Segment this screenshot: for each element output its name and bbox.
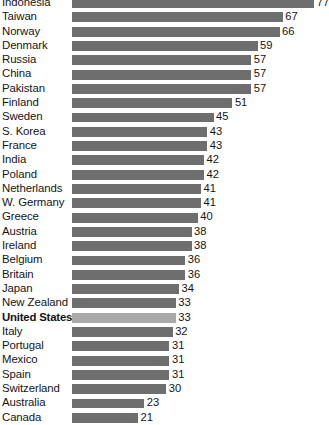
bar-track: 45 <box>72 110 320 124</box>
category-label: Denmark <box>2 39 48 53</box>
bar <box>72 356 169 366</box>
category-label: Poland <box>2 168 37 182</box>
category-label: Mexico <box>2 353 37 367</box>
bar-track: 31 <box>72 339 320 353</box>
bar <box>72 41 258 51</box>
bar-track: 31 <box>72 368 320 382</box>
bar-row: Poland42 <box>0 168 320 182</box>
category-label: Norway <box>2 25 40 39</box>
bar-row: France43 <box>0 139 320 153</box>
bar <box>72 227 192 237</box>
bar-track: 77 <box>72 0 320 10</box>
value-label: 32 <box>175 325 187 339</box>
bar <box>72 384 166 394</box>
value-label: 43 <box>210 125 222 139</box>
value-label: 33 <box>178 296 190 310</box>
bar-track: 57 <box>72 53 320 67</box>
bar-row: Sweden45 <box>0 110 320 124</box>
bar <box>72 98 232 108</box>
bar <box>72 84 251 94</box>
bar <box>72 413 138 423</box>
bar-row: Finland51 <box>0 96 320 110</box>
value-label: 33 <box>178 311 190 325</box>
bar-track: 67 <box>72 10 320 24</box>
bar-row: China57 <box>0 67 320 81</box>
bar-row: Russia57 <box>0 53 320 67</box>
bar-track: 38 <box>72 239 320 253</box>
bar-track: 59 <box>72 39 320 53</box>
bar-track: 51 <box>72 96 320 110</box>
value-label: 21 <box>141 411 153 425</box>
value-label: 36 <box>188 253 200 267</box>
bar-row: S. Korea43 <box>0 125 320 139</box>
bar <box>72 27 280 37</box>
bar <box>72 12 283 22</box>
value-label: 57 <box>254 82 266 96</box>
value-label: 23 <box>147 396 159 410</box>
bar-track: 32 <box>72 325 320 339</box>
bar <box>72 55 251 65</box>
bar-track: 34 <box>72 282 320 296</box>
category-label: India <box>2 153 26 167</box>
bar-row: Pakistan57 <box>0 82 320 96</box>
value-label: 42 <box>207 168 219 182</box>
bar-track: 43 <box>72 125 320 139</box>
bar <box>72 256 185 266</box>
bar-row: India42 <box>0 153 320 167</box>
category-label: Taiwan <box>2 10 37 24</box>
category-label: Ireland <box>2 239 36 253</box>
bar <box>72 270 185 280</box>
bar <box>72 184 201 194</box>
category-label: Britain <box>2 268 34 282</box>
bar <box>72 313 176 323</box>
bar <box>72 213 198 223</box>
bar-row: Ireland38 <box>0 239 320 253</box>
bar-track: 31 <box>72 353 320 367</box>
category-label: Austria <box>2 225 37 239</box>
category-label: Finland <box>2 96 39 110</box>
category-label: Belgium <box>2 253 42 267</box>
bar-row: Spain31 <box>0 368 320 382</box>
bar-row: Canada21 <box>0 411 320 425</box>
category-label: Indonesia <box>2 0 51 10</box>
category-label: Pakistan <box>2 82 45 96</box>
value-label: 43 <box>210 139 222 153</box>
bar-row: Taiwan67 <box>0 10 320 24</box>
category-label: Spain <box>2 368 31 382</box>
bar-track: 36 <box>72 268 320 282</box>
bar <box>72 327 173 337</box>
category-label: Japan <box>2 282 33 296</box>
bar-row: Britain36 <box>0 268 320 282</box>
bar-track: 33 <box>72 296 320 310</box>
bar-row: Greece40 <box>0 210 320 224</box>
category-label: United States <box>2 311 72 325</box>
category-label: Sweden <box>2 110 43 124</box>
category-label: Netherlands <box>2 182 62 196</box>
bar-track: 33 <box>72 311 320 325</box>
bar-track: 57 <box>72 82 320 96</box>
bar <box>72 198 201 208</box>
value-label: 38 <box>194 225 206 239</box>
bar <box>72 155 204 165</box>
bar-row: Japan34 <box>0 282 320 296</box>
category-label: Italy <box>2 325 22 339</box>
bar-track: 41 <box>72 196 320 210</box>
bar <box>72 399 144 409</box>
value-label: 42 <box>207 153 219 167</box>
value-label: 41 <box>203 196 215 210</box>
value-label: 36 <box>188 268 200 282</box>
category-label: New Zealand <box>2 296 68 310</box>
category-label: Switzerland <box>2 382 60 396</box>
bar <box>72 0 314 8</box>
value-label: 45 <box>216 110 228 124</box>
bar-row: Norway66 <box>0 25 320 39</box>
bar-row: Switzerland30 <box>0 382 320 396</box>
value-label: 41 <box>203 182 215 196</box>
value-label: 57 <box>254 67 266 81</box>
bar-track: 30 <box>72 382 320 396</box>
bar-track: 36 <box>72 253 320 267</box>
value-label: 30 <box>169 382 181 396</box>
bar <box>72 70 251 80</box>
bar-track: 41 <box>72 182 320 196</box>
category-label: France <box>2 139 37 153</box>
